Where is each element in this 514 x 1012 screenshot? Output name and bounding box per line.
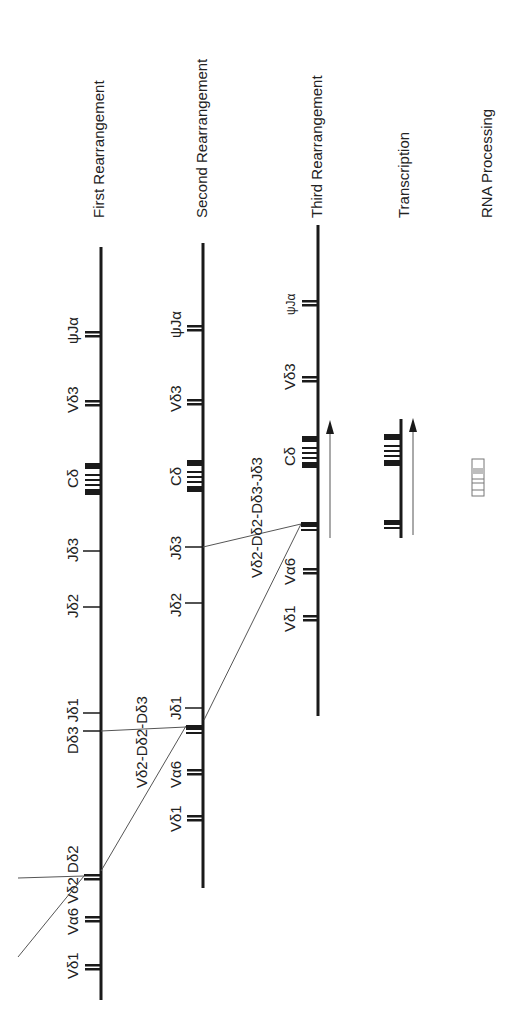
label-first-cd: Cδ — [64, 469, 81, 488]
second-rearrangement-locus: ψJα Vδ3 Cδ Jδ3 Jδ2 Jδ1 Vδ2-Dδ2-Dδ3 Vα6 V… — [133, 243, 203, 888]
label-second-jd3: Jδ3 — [167, 536, 184, 560]
label-third-psija: ψJα — [284, 293, 298, 315]
third-rearrangement-locus: ψJα Vδ3 Cδ Vδ2-Dδ2-Dδ3-Jδ3 Vα6 Vδ1 — [248, 225, 334, 716]
first-rearrangement-locus: ψJα Vδ3 Cδ Jδ3 Jδ2 Dδ3 Jδ1 Vα6 Vδ2 Dδ2 V… — [64, 247, 101, 1000]
label-third-vd1: Vδ1 — [281, 605, 298, 632]
label-third-cd: Cδ — [281, 447, 298, 466]
label-first-jd2: Jδ2 — [64, 594, 81, 618]
transcript — [384, 418, 417, 538]
label-second-joined: Vδ2-Dδ2-Dδ3 — [133, 696, 150, 788]
label-second-cd: Cδ — [167, 467, 184, 486]
label-second-psija: ψJα — [167, 311, 184, 338]
title-first-rearrangement: First Rearrangement — [90, 80, 107, 218]
mature-rna — [472, 459, 484, 496]
label-third-va6: Vα6 — [281, 558, 298, 585]
label-third-vd3: Vδ3 — [281, 363, 298, 390]
title-transcription: Transcription — [395, 132, 412, 218]
arrowhead-icon — [409, 418, 417, 432]
title-second-rearrangement: Second Rearrangement — [193, 58, 210, 218]
title-rna-processing: RNA Processing — [478, 109, 495, 218]
label-second-jd2: Jδ2 — [167, 593, 184, 617]
label-first-vd1: Vδ1 — [64, 952, 81, 979]
arrowhead-icon — [326, 420, 334, 434]
label-third-joined: Vδ2-Dδ2-Dδ3-Jδ3 — [248, 457, 265, 578]
label-second-jd1: Jδ1 — [167, 696, 184, 720]
label-first-dd3-jd1: Dδ3 Jδ1 — [64, 698, 81, 754]
label-first-jd3: Jδ3 — [64, 538, 81, 562]
title-third-rearrangement: Third Rearrangement — [308, 75, 325, 218]
label-first-psija: ψJα — [64, 317, 81, 344]
label-first-vd3: Vδ3 — [64, 386, 81, 413]
label-second-va6: Vα6 — [167, 761, 184, 788]
label-second-vd1: Vδ1 — [167, 805, 184, 832]
gene-rearrangement-diagram: First Rearrangement Second Rearrangement… — [0, 0, 514, 1012]
label-second-vd3: Vδ3 — [167, 385, 184, 412]
